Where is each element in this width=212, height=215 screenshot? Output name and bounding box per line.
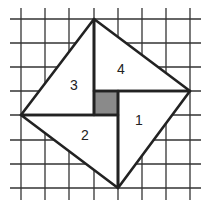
triangle-label-1: 1 xyxy=(135,112,143,128)
triangle-label-2: 2 xyxy=(81,127,89,143)
pinwheel-diagram: 1234 xyxy=(0,0,212,215)
triangle-label-4: 4 xyxy=(117,61,125,77)
triangle-label-3: 3 xyxy=(70,77,78,93)
center-shaded-square xyxy=(94,91,118,115)
